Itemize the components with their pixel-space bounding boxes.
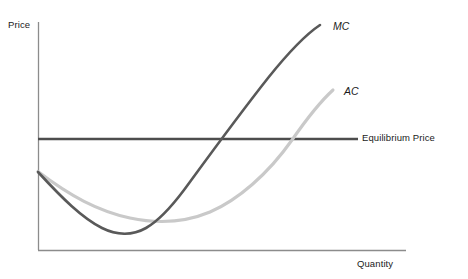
ac-curve-label: AC (344, 85, 359, 97)
x-axis-label: Quantity (357, 258, 393, 269)
y-axis-label: Price (8, 19, 30, 30)
mc-curve-label: MC (333, 20, 349, 32)
equilibrium-price-label: Equilibrium Price (362, 132, 435, 143)
ac-curve (38, 90, 333, 221)
mc-curve (38, 25, 320, 234)
economics-cost-curve-chart: Price Quantity MC AC Equilibrium Price (0, 0, 468, 279)
